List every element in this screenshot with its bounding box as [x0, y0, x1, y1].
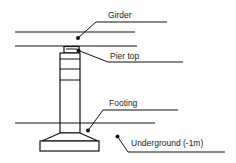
girder-label: Girder [108, 10, 132, 20]
footing-leader-line [88, 110, 178, 131]
pier-diagram: Girder Pier top Footing Underground (-1m… [0, 0, 236, 163]
footing-base [40, 141, 99, 151]
pier-top-label: Pier top [110, 51, 140, 61]
footing-taper [42, 133, 98, 141]
underground-label: Underground (-1m) [131, 138, 203, 148]
pier-column [60, 53, 80, 133]
footing-label: Footing [109, 98, 138, 108]
girder-leader-line [78, 22, 167, 38]
